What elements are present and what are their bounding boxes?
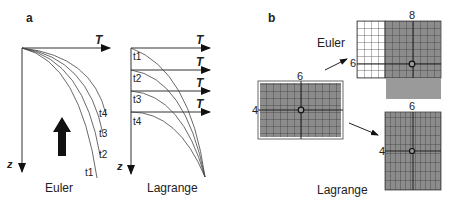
- euler-curve-label-t2: t2: [99, 149, 108, 160]
- lagrange-curve-label-t4: t4: [133, 116, 142, 127]
- euler-z-label: z: [6, 158, 13, 170]
- initial-grid-side-label: 4: [252, 104, 258, 116]
- up-arrow-icon: [53, 117, 71, 156]
- lagrange-arrow-icon: [349, 123, 378, 135]
- lagrange-curve-t3: [131, 91, 205, 177]
- panel-a: a T z t1 t2 t3 t4 Euler T T T: [6, 11, 210, 195]
- euler-grid-top-label: 8: [409, 9, 415, 21]
- euler-curve-t4: [22, 48, 106, 114]
- euler-arrow-icon: [325, 59, 347, 70]
- euler-curve-label-t1: t1: [85, 167, 94, 178]
- lagrange-center-marker-icon: [410, 149, 415, 154]
- euler-curve-label-t4: t4: [99, 108, 108, 119]
- center-marker-icon: [298, 107, 304, 113]
- lagrange-grid-title: Lagrange: [317, 183, 368, 197]
- panel-a-label: a: [26, 11, 33, 25]
- euler-t-label: T: [95, 33, 104, 47]
- figure: a T z t1 t2 t3 t4 Euler T T T: [0, 0, 451, 203]
- euler-title: Euler: [45, 181, 73, 195]
- euler-grid-title: Euler: [317, 36, 345, 50]
- euler-grid-side-label: 6: [350, 57, 356, 69]
- lagrange-t-label-4: T: [196, 97, 205, 111]
- initial-grid: 6 4: [252, 70, 343, 139]
- lagrange-t-label-2: T: [196, 55, 205, 69]
- panel-b-label: b: [268, 11, 275, 25]
- lagrange-grid-top-label: 6: [409, 100, 415, 112]
- lagrange-curve-label-t1: t1: [133, 51, 142, 62]
- euler-curve-label-t3: t3: [99, 128, 108, 139]
- lagrange-title: Lagrange: [147, 181, 198, 195]
- lagrange-curve-t4: [131, 112, 205, 177]
- initial-grid-top-label: 6: [297, 70, 303, 82]
- lagrange-z-label: z: [116, 160, 123, 172]
- lagrange-curve-t2: [131, 70, 205, 177]
- lagrange-plot: T T T T z t1 t2 t3 t4 Lagrange: [116, 33, 210, 195]
- lagrange-curve-label-t3: t3: [133, 94, 142, 105]
- panel-b: b 6 4 Euler 8 6: [252, 9, 441, 197]
- lagrange-t-label-1: T: [196, 33, 205, 47]
- lagrange-grid-side-label: 4: [379, 145, 385, 157]
- euler-plot: T z t1 t2 t3 t4 Euler: [6, 33, 110, 195]
- euler-curve-t1: [22, 48, 97, 178]
- lagrange-curve-label-t2: t2: [133, 73, 142, 84]
- euler-center-marker-icon: [409, 61, 415, 67]
- lagrange-t-label-3: T: [196, 76, 205, 90]
